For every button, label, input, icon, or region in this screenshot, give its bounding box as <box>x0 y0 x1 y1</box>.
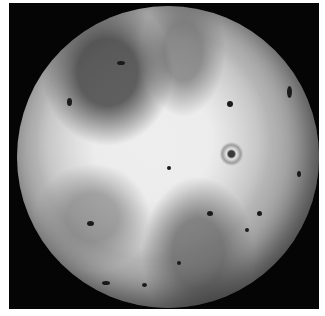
volcanic-spot <box>142 283 147 287</box>
volcanic-spot <box>117 61 125 65</box>
volcanic-spot <box>287 86 292 98</box>
volcanic-spot <box>167 166 171 170</box>
volcanic-spot <box>227 101 233 107</box>
volcanic-spot <box>245 228 249 232</box>
volcanic-spot <box>177 261 181 265</box>
image-frame <box>9 3 319 309</box>
planet-io-disk <box>17 6 319 308</box>
volcanic-spot <box>102 281 110 285</box>
volcanic-spot <box>67 98 72 106</box>
volcanic-spot <box>207 211 213 216</box>
volcanic-spot <box>87 221 94 226</box>
volcanic-spot <box>297 171 301 177</box>
volcanic-spot <box>257 211 262 216</box>
